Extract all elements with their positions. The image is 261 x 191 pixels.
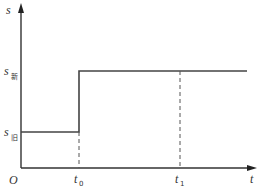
t1-subscript: 1 (180, 180, 184, 188)
t0-subscript: 0 (79, 180, 83, 188)
step-line (21, 71, 247, 132)
x-axis-arrow-icon (247, 165, 257, 171)
s-new-label: s (4, 64, 9, 78)
t0-label: t (74, 172, 78, 186)
s-old-subscript: 旧 (11, 134, 18, 142)
origin-label: O (9, 173, 18, 187)
s-new-subscript: 新 (11, 72, 18, 81)
y-axis-label: s (6, 3, 11, 17)
x-axis-label: t (250, 172, 254, 186)
step-function-diagram: s s 新 s 旧 O t 0 t 1 t (0, 0, 261, 191)
t1-label: t (175, 172, 179, 186)
y-axis-arrow-icon (18, 3, 24, 13)
s-old-label: s (4, 125, 9, 139)
